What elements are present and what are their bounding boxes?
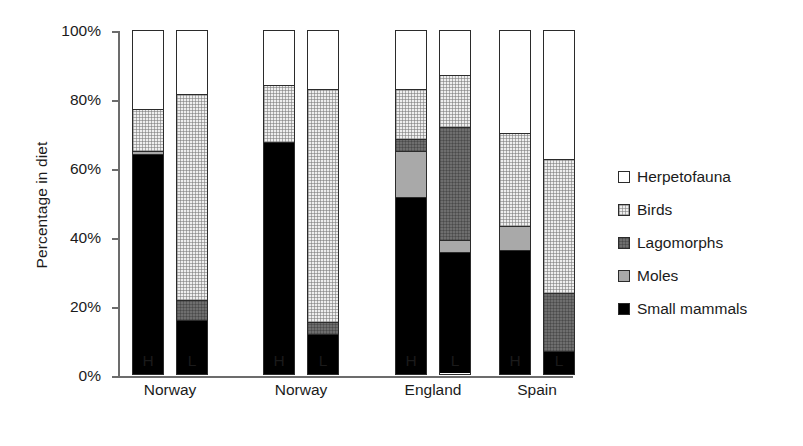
- legend-swatch-moles-icon: [618, 270, 630, 282]
- segment-herpetofauna: [177, 31, 207, 94]
- legend-swatch-lagomorphs-icon: [618, 237, 630, 249]
- legend: HerpetofaunaBirdsLagomorphsMolesSmall ma…: [618, 160, 798, 325]
- y-tick-label-60: 60%: [70, 160, 101, 178]
- y-tick-label-80: 80%: [70, 91, 101, 109]
- legend-swatch-birds-icon: [618, 204, 630, 216]
- segment-lagomorphs: [177, 300, 207, 321]
- legend-label-birds: Birds: [637, 202, 672, 218]
- y-tick-40: 40%: [112, 238, 118, 240]
- segment-herpetofauna: [544, 31, 574, 160]
- bar-norway-1-L[interactable]: [307, 30, 339, 375]
- legend-swatch-smallmammals-icon: [618, 303, 630, 315]
- segment-lagomorphs: [396, 139, 426, 151]
- y-tick-20: 20%: [112, 307, 118, 309]
- legend-item-smallmammals[interactable]: Small mammals: [618, 292, 798, 325]
- segment-birds: [544, 159, 574, 293]
- segment-smallmammals: [264, 142, 294, 374]
- plot-area: 100%80%60%40%20%0%: [118, 31, 573, 376]
- segment-lagomorphs: [308, 322, 338, 334]
- y-tick-label-100: 100%: [61, 22, 101, 40]
- x-axis-line: [118, 376, 573, 378]
- group-label-spain-3: Spain: [477, 381, 597, 399]
- segment-moles: [500, 226, 530, 250]
- bar-norway-0-H[interactable]: [132, 30, 164, 375]
- segment-herpetofauna: [396, 31, 426, 89]
- y-tick-100: 100%: [112, 31, 118, 33]
- bar-label-h-2: H: [263, 352, 295, 370]
- legend-label-lagomorphs: Lagomorphs: [637, 235, 723, 251]
- bar-spain-3-L[interactable]: [543, 30, 575, 375]
- bar-label-l-1: L: [176, 352, 208, 370]
- y-tick-80: 80%: [112, 100, 118, 102]
- segment-birds: [177, 94, 207, 300]
- segment-herpetofauna: [133, 31, 163, 110]
- segment-birds: [440, 75, 470, 126]
- bar-england-2-L[interactable]: [439, 30, 471, 375]
- bar-norway-1-H[interactable]: [263, 30, 295, 375]
- group-label-norway-1: Norway: [241, 381, 361, 399]
- segment-birds: [264, 85, 294, 142]
- y-axis-title: Percentage in diet: [33, 75, 51, 335]
- legend-item-herpetofauna[interactable]: Herpetofauna: [618, 160, 798, 193]
- segment-lagomorphs: [544, 293, 574, 351]
- legend-swatch-herpetofauna-icon: [618, 171, 630, 183]
- segment-herpetofauna: [264, 31, 294, 86]
- segment-herpetofauna: [500, 31, 530, 134]
- segment-moles: [440, 240, 470, 252]
- legend-item-moles[interactable]: Moles: [618, 259, 798, 292]
- bar-england-2-H[interactable]: [395, 30, 427, 375]
- legend-label-herpetofauna: Herpetofauna: [637, 169, 731, 185]
- segment-smallmammals: [396, 197, 426, 374]
- segment-lagomorphs: [440, 127, 470, 240]
- segment-birds: [308, 89, 338, 322]
- bar-label-h-0: H: [132, 352, 164, 370]
- segment-birds: [133, 109, 163, 150]
- legend-label-smallmammals: Small mammals: [637, 301, 747, 317]
- y-tick-60: 60%: [112, 169, 118, 171]
- bar-label-h-4: H: [395, 352, 427, 370]
- bar-norway-0-L[interactable]: [176, 30, 208, 375]
- segment-moles: [396, 151, 426, 197]
- legend-item-birds[interactable]: Birds: [618, 193, 798, 226]
- legend-item-lagomorphs[interactable]: Lagomorphs: [618, 226, 798, 259]
- y-tick-label-40: 40%: [70, 229, 101, 247]
- segment-birds: [500, 133, 530, 226]
- legend-label-moles: Moles: [637, 268, 678, 284]
- y-axis-line: [118, 31, 120, 377]
- segment-herpetofauna: [308, 31, 338, 89]
- group-label-norway-0: Norway: [110, 381, 230, 399]
- y-tick-label-0: 0%: [79, 367, 101, 385]
- bar-label-l-3: L: [307, 352, 339, 370]
- y-tick-label-20: 20%: [70, 298, 101, 316]
- bar-spain-3-H[interactable]: [499, 30, 531, 375]
- segment-birds: [396, 89, 426, 139]
- segment-herpetofauna: [440, 31, 470, 76]
- y-tick-0: 0%: [112, 376, 118, 378]
- group-label-england-2: England: [373, 381, 493, 399]
- bar-label-l-5: L: [439, 352, 471, 370]
- segment-smallmammals: [133, 154, 163, 374]
- bar-label-l-7: L: [543, 352, 575, 370]
- bar-label-h-6: H: [499, 352, 531, 370]
- stacked-bar-chart: Percentage in diet 100%80%60%40%20%0% HL…: [0, 0, 803, 446]
